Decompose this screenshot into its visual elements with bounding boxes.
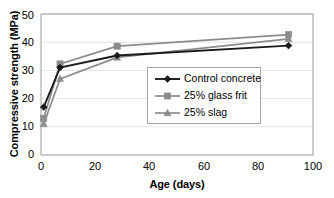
legend-label-slag: 25% slag [184,106,227,118]
legend-label-glass-frit: 25% glass frit [184,89,247,101]
square-marker-icon [164,93,170,99]
diamond-marker-icon [164,76,171,83]
chart-figure: Compressive strength (MPa) 50 40 30 20 1… [0,0,334,198]
legend: Control concrete 25% glass frit 25% slag [147,67,261,124]
legend-label-control: Control concrete [184,72,261,84]
data-point-marker [114,43,120,49]
data-point-marker [285,42,292,49]
